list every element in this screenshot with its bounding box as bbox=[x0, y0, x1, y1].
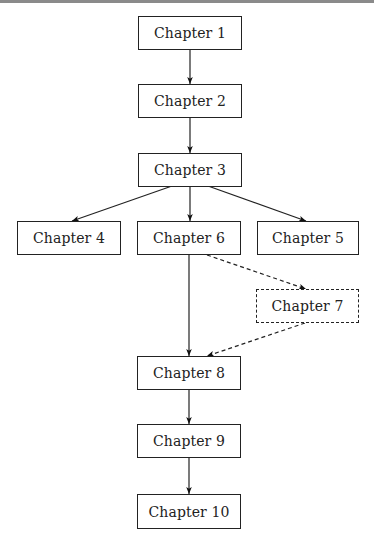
node-label: Chapter 6 bbox=[153, 230, 225, 246]
node-chapter-7: Chapter 7 bbox=[256, 289, 359, 323]
node-label: Chapter 8 bbox=[153, 365, 225, 381]
node-chapter-2: Chapter 2 bbox=[138, 84, 242, 118]
node-label: Chapter 3 bbox=[154, 162, 226, 178]
node-label: Chapter 1 bbox=[154, 25, 226, 41]
node-label: Chapter 4 bbox=[33, 230, 105, 246]
node-chapter-4: Chapter 4 bbox=[17, 221, 121, 255]
node-chapter-3: Chapter 3 bbox=[138, 153, 242, 187]
node-chapter-9: Chapter 9 bbox=[137, 424, 241, 458]
node-label: Chapter 5 bbox=[272, 230, 344, 246]
node-chapter-1: Chapter 1 bbox=[138, 16, 242, 50]
node-label: Chapter 9 bbox=[153, 433, 225, 449]
edges-layer bbox=[0, 0, 374, 542]
node-chapter-5: Chapter 5 bbox=[257, 221, 359, 255]
edge-ch3-ch5 bbox=[208, 186, 306, 221]
node-chapter-10: Chapter 10 bbox=[137, 494, 241, 529]
node-chapter-6: Chapter 6 bbox=[137, 221, 241, 255]
node-chapter-8: Chapter 8 bbox=[137, 356, 241, 390]
edge-ch7-ch8 bbox=[207, 323, 305, 356]
node-label: Chapter 2 bbox=[154, 93, 226, 109]
node-label: Chapter 10 bbox=[149, 504, 230, 520]
edge-ch6-ch7 bbox=[207, 255, 306, 289]
node-label: Chapter 7 bbox=[272, 298, 344, 314]
edge-ch3-ch4 bbox=[72, 186, 172, 221]
